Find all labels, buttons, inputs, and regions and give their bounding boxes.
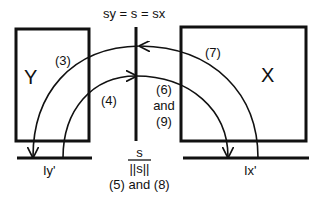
caption-5-and-8: (5) and (8): [109, 178, 170, 192]
fraction-numerator: s: [128, 146, 151, 160]
ground-label-left: Iy': [43, 164, 56, 178]
label-7: (7): [205, 46, 221, 60]
box-y-label: Y: [24, 67, 37, 87]
label-6-and-9: (6) and (9): [148, 83, 180, 129]
label-and: and: [148, 99, 180, 113]
label-9: (9): [148, 115, 180, 129]
label-6: (6): [148, 83, 180, 97]
box-x: [181, 27, 306, 141]
label-4: (4): [101, 94, 117, 108]
box-x-label: X: [261, 65, 274, 85]
ground-label-right: Ix': [244, 164, 257, 178]
fraction-denominator: ||s||: [124, 162, 155, 176]
label-3: (3): [55, 54, 71, 68]
inner-arc-left: [63, 76, 136, 158]
top-equation: sy = s = sx: [103, 7, 165, 21]
